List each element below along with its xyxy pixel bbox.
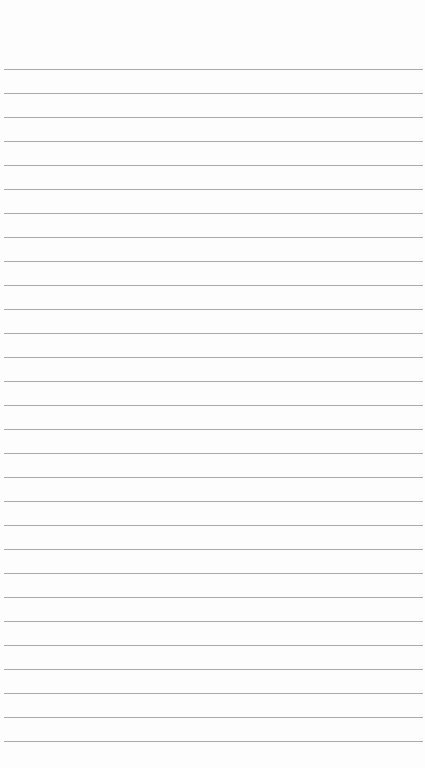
ruled-line — [4, 669, 423, 670]
ruled-line — [4, 453, 423, 454]
ruled-line — [4, 237, 423, 238]
ruled-line — [4, 741, 423, 742]
ruled-line — [4, 165, 423, 166]
ruled-line — [4, 189, 423, 190]
ruled-line — [4, 597, 423, 598]
ruled-line — [4, 93, 423, 94]
ruled-line — [4, 693, 423, 694]
ruled-line — [4, 381, 423, 382]
ruled-line — [4, 573, 423, 574]
ruled-line — [4, 549, 423, 550]
ruled-line — [4, 621, 423, 622]
ruled-line — [4, 429, 423, 430]
ruled-line — [4, 501, 423, 502]
lined-paper — [0, 0, 425, 768]
ruled-line — [4, 285, 423, 286]
ruled-line — [4, 309, 423, 310]
ruled-line — [4, 117, 423, 118]
ruled-line — [4, 333, 423, 334]
ruled-line — [4, 141, 423, 142]
ruled-line — [4, 405, 423, 406]
ruled-line — [4, 477, 423, 478]
ruled-line — [4, 69, 423, 70]
ruled-line — [4, 357, 423, 358]
ruled-line — [4, 717, 423, 718]
ruled-line — [4, 213, 423, 214]
ruled-line — [4, 261, 423, 262]
ruled-line — [4, 525, 423, 526]
ruled-line — [4, 645, 423, 646]
